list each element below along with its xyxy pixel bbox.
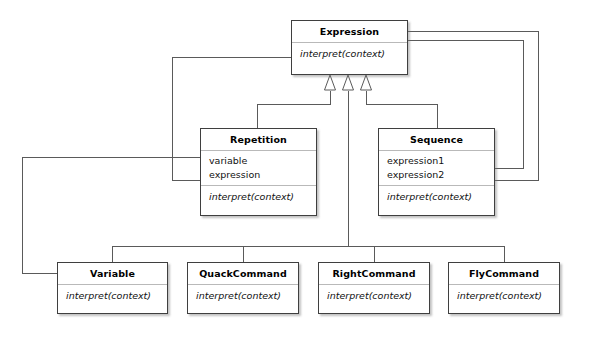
association-repetition-variable (22, 157, 200, 273)
generalization-repetition (257, 91, 330, 128)
class-name-repetition: Repetition (201, 129, 316, 151)
class-box-variable[interactable]: Variable interpret(context) (57, 262, 168, 314)
class-operations-expression: interpret(context) (292, 43, 407, 74)
class-operations-rightcommand: interpret(context) (319, 285, 429, 313)
class-name-quackcommand: QuackCommand (188, 263, 298, 285)
class-name-rightcommand: RightCommand (319, 263, 429, 285)
class-name-expression: Expression (292, 21, 407, 43)
class-name-variable: Variable (58, 263, 167, 285)
inheritance-triangle-icon (325, 75, 336, 90)
operation: interpret(context) (300, 48, 399, 61)
operation: interpret(context) (66, 290, 159, 303)
attribute: expression2 (387, 169, 486, 182)
attribute: variable (209, 155, 308, 168)
inheritance-triangle-icon (361, 75, 372, 90)
class-operations-sequence: interpret(context) (379, 186, 494, 215)
class-box-rightcommand[interactable]: RightCommand interpret(context) (318, 262, 430, 314)
class-attributes-repetition: variable expression (201, 151, 316, 186)
uml-class-diagram: Expression interpret(context) Repetition… (0, 0, 589, 340)
attribute: expression (209, 169, 308, 182)
class-operations-flycommand: interpret(context) (449, 285, 559, 313)
class-box-flycommand[interactable]: FlyCommand interpret(context) (448, 262, 560, 314)
class-name-sequence: Sequence (379, 129, 494, 151)
class-operations-quackcommand: interpret(context) (188, 285, 298, 313)
class-box-sequence[interactable]: Sequence expression1 expression2 interpr… (378, 128, 495, 216)
class-name-flycommand: FlyCommand (449, 263, 559, 285)
class-operations-repetition: interpret(context) (201, 186, 316, 215)
class-box-expression[interactable]: Expression interpret(context) (291, 20, 408, 75)
class-attributes-sequence: expression1 expression2 (379, 151, 494, 186)
class-box-quackcommand[interactable]: QuackCommand interpret(context) (187, 262, 299, 314)
class-operations-variable: interpret(context) (58, 285, 167, 313)
operation: interpret(context) (196, 290, 290, 303)
attribute: expression1 (387, 155, 486, 168)
operation: interpret(context) (387, 191, 486, 204)
generalization-sequence (366, 91, 437, 128)
class-box-repetition[interactable]: Repetition variable expression interpret… (200, 128, 317, 216)
operation: interpret(context) (457, 290, 551, 303)
operation: interpret(context) (209, 191, 308, 204)
operation: interpret(context) (327, 290, 421, 303)
inheritance-triangle-icon (343, 75, 354, 90)
